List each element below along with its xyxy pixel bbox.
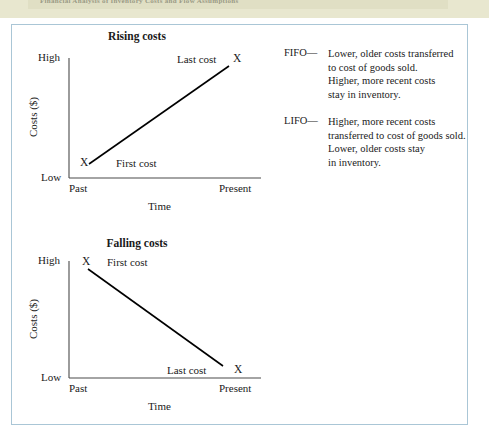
entry-line: in inventory.: [328, 156, 464, 170]
x-axis-label: Time: [148, 400, 171, 412]
entry-line: Higher, more recent costs: [328, 115, 464, 129]
first-cost-label: First cost: [116, 157, 157, 169]
panel-falling-costs: Falling costs Costs ($) High Low Past Pr…: [12, 225, 467, 423]
entry-line: Lower, older costs transferred: [328, 47, 464, 61]
data-line-falling: [88, 269, 223, 366]
x-axis-label: Time: [148, 200, 171, 212]
x-tick-present: Present: [219, 382, 251, 394]
explanation-rising: FIFO— Lower, older costs transferred to …: [284, 47, 464, 183]
first-cost-label: First cost: [107, 256, 148, 268]
y-axis-label: Costs ($): [27, 87, 39, 147]
entry-tag-fifo: FIFO—: [284, 47, 317, 58]
last-cost-label: Last cost: [167, 364, 206, 376]
entry-body-lifo: Higher, more recent costs transferred to…: [328, 115, 464, 169]
last-cost-marker: X: [233, 52, 241, 64]
entry-line: to cost of goods sold.: [328, 61, 464, 75]
entry-line: stay in inventory.: [328, 88, 464, 102]
x-tick-present: Present: [219, 182, 251, 194]
banner-title: Financial Analysis of Inventory Costs an…: [40, 0, 440, 5]
entry-tag-lifo: LIFO—: [284, 115, 318, 126]
y-axis-label: Costs ($): [27, 289, 39, 349]
x-tick-past: Past: [69, 382, 87, 394]
y-tick-low: Low: [41, 171, 61, 183]
y-tick-high: High: [38, 51, 60, 63]
entry-line: transferred to cost of goods sold.: [328, 129, 464, 143]
entry-lifo-rising: LIFO— Higher, more recent costs transfer…: [284, 115, 464, 169]
entry-line: Lower, older costs stay: [328, 142, 464, 156]
last-cost-marker: X: [234, 363, 242, 375]
panel-rising-costs: Rising costs Costs ($) High Low Past Pre…: [12, 25, 467, 225]
page-banner: Financial Analysis of Inventory Costs an…: [0, 0, 489, 18]
first-cost-marker: X: [82, 255, 90, 267]
first-cost-marker: X: [80, 156, 88, 168]
data-line-rising: [89, 66, 229, 164]
y-tick-high: High: [38, 254, 60, 266]
entry-line: Higher, more recent costs: [328, 74, 464, 88]
entry-fifo-rising: FIFO— Lower, older costs transferred to …: [284, 47, 464, 101]
exhibit-box: Rising costs Costs ($) High Low Past Pre…: [11, 24, 468, 425]
chart-rising-costs: Costs ($) High Low Past Present Time X F…: [12, 25, 274, 225]
x-tick-past: Past: [69, 182, 87, 194]
entry-body-fifo: Lower, older costs transferred to cost o…: [328, 47, 464, 101]
y-tick-low: Low: [41, 371, 61, 383]
chart-falling-costs: Costs ($) High Low Past Present Time X F…: [12, 225, 274, 425]
last-cost-label: Last cost: [177, 53, 216, 65]
